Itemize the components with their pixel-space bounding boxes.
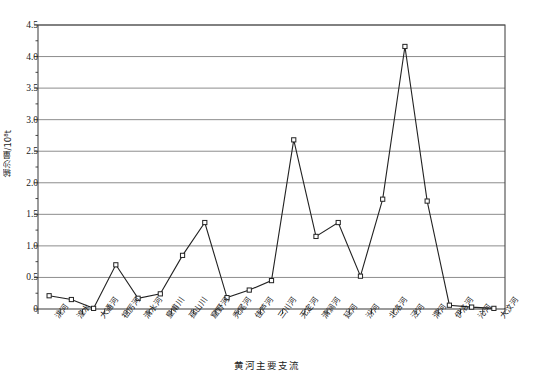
data-point-marker: [180, 253, 184, 257]
x-axis-tick-labels: 洮河湟水大通河祖厉河清水河皇甫川孤山川窟野河秃尾河佳芦河三川河无定河清涧河延河汾…: [0, 314, 534, 360]
data-point-marker: [203, 220, 207, 224]
data-point-marker: [69, 297, 73, 301]
data-point-marker: [158, 292, 162, 296]
data-point-marker: [47, 294, 51, 298]
data-point-marker: [336, 220, 340, 224]
data-point-marker: [247, 288, 251, 292]
sediment-load-line-chart: 输沙量/10⁸t 00.51.01.52.02.53.03.54.04.5 洮河…: [0, 0, 534, 380]
data-point-marker: [292, 138, 296, 142]
data-point-marker: [403, 44, 407, 48]
data-point-marker: [269, 279, 273, 283]
data-point-marker: [358, 274, 362, 278]
plot-background: [38, 25, 505, 309]
data-point-marker: [425, 199, 429, 203]
data-point-marker: [381, 197, 385, 201]
data-point-marker: [114, 263, 118, 267]
x-axis-title: 黄河主要支流: [0, 358, 534, 372]
data-point-marker: [314, 234, 318, 238]
